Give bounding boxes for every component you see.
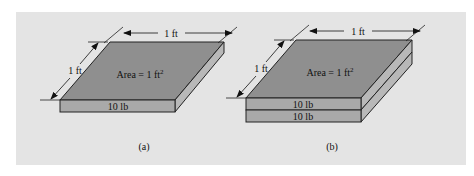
slab-b-upper-weight-label: 10 lb	[293, 99, 313, 110]
dim-b-depth-label: 1 ft	[254, 63, 268, 74]
caption-b: (b)	[326, 141, 338, 153]
dim-a-width-ext-right	[218, 27, 237, 43]
dim-a-width-ext-left	[104, 27, 123, 43]
dim-b-width-label: 1 ft	[351, 26, 365, 37]
slab-b-lower-weight-label: 10 lb	[293, 111, 313, 122]
area-a-label: Area = 1 ft2	[116, 68, 164, 80]
slab-a-weight-label: 10 lb	[108, 101, 128, 112]
dim-a-width-label: 1 ft	[164, 28, 178, 39]
dim-b-width-ext-left	[290, 25, 309, 41]
area-b-label: Area = 1 ft2	[306, 66, 354, 78]
figure-b: 10 lb 10 lb 1 ft 1 ft Area = 1 ft2 (b)	[226, 25, 425, 153]
figure-a: 10 lb 1 ft 1 ft Area = 1 ft2 (a)	[40, 27, 237, 153]
dim-b-width-ext-right	[406, 25, 425, 41]
pressure-slab-diagram: 10 lb 1 ft 1 ft Area = 1 ft2 (a) 10 lb 1…	[0, 0, 474, 176]
dim-a-depth-label: 1 ft	[68, 65, 82, 76]
caption-a: (a)	[138, 141, 149, 153]
